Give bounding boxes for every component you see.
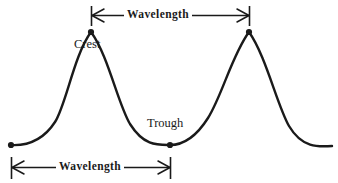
trough-point [167,142,173,148]
wavelength-bottom-label: Wavelength [56,160,124,173]
wave-diagram: Wavelength Wavelength Crest Trough [0,0,338,183]
crest-point-1 [88,29,94,35]
trough-label: Trough [147,117,183,130]
wavelength-top-label: Wavelength [124,8,192,21]
origin-point [8,142,14,148]
crest-label: Crest [74,38,100,51]
wave-diagram-canvas [0,0,338,183]
crest-point-2 [246,29,252,35]
